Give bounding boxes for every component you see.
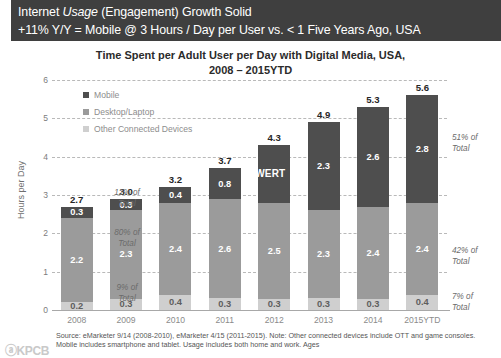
annotation-left-share: 9% ofTotal bbox=[103, 283, 151, 304]
bar-segment-other[interactable]: 0.2 bbox=[61, 302, 93, 310]
legend-swatch-mobile bbox=[83, 92, 89, 98]
chart-legend: Mobile Desktop/Laptop Other Connected De… bbox=[83, 86, 192, 137]
slide-header-band: Internet Usage (Engagement) Growth Solid… bbox=[11, 0, 501, 41]
y-axis-tick: 4 bbox=[30, 152, 48, 162]
chart-title-line-1: Time Spent per Adult User per Day with D… bbox=[0, 48, 501, 63]
bar-segment-mobile[interactable]: 2.8 bbox=[406, 95, 438, 202]
bar-total-label: 5.3 bbox=[351, 94, 395, 105]
bar-segment-mobile[interactable]: 2.3 bbox=[308, 122, 340, 210]
bar-segment-other[interactable]: 0.4 bbox=[159, 295, 191, 310]
bar-segment-desktop[interactable]: 2.4 bbox=[357, 207, 389, 299]
x-axis-tick: 2008 bbox=[51, 315, 103, 325]
legend-item-other[interactable]: Other Connected Devices bbox=[83, 120, 192, 137]
x-axis-tick: 2011 bbox=[199, 315, 251, 325]
header-line-2: +11% Y/Y = Mobile @ 3 Hours / Day per Us… bbox=[18, 21, 501, 39]
axis-baseline bbox=[52, 310, 450, 311]
bar-total-label: 4.9 bbox=[302, 109, 346, 120]
y-axis-tick: 6 bbox=[30, 75, 48, 85]
bar-segment-desktop[interactable]: 2.6 bbox=[209, 199, 241, 299]
header-line1-pre: Internet bbox=[18, 5, 63, 19]
legend-swatch-other bbox=[83, 126, 89, 132]
header-line1-emphasis: Usage bbox=[63, 5, 98, 19]
bar-segment-mobile[interactable]: 0.4 bbox=[159, 187, 191, 202]
bar-segment-desktop[interactable]: 2.5 bbox=[258, 203, 290, 299]
bar-segment-mobile[interactable]: 0.3 bbox=[61, 207, 93, 219]
bar-stack[interactable]: 2.82.40.4 bbox=[406, 95, 438, 310]
bar-segment-mobile[interactable]: 2.6 bbox=[357, 107, 389, 207]
y-axis-tick: 1 bbox=[30, 267, 48, 277]
x-axis-tick: 2010 bbox=[149, 315, 201, 325]
x-axis-tick: 2014 bbox=[347, 315, 399, 325]
annotation-right-share: 7% ofTotal bbox=[452, 292, 501, 313]
bar-segment-desktop[interactable]: 2.4 bbox=[159, 203, 191, 295]
legend-label-mobile: Mobile bbox=[94, 90, 119, 100]
bar-stack[interactable]: 0.42.40.4 bbox=[159, 187, 191, 310]
legend-label-desktop: Desktop/Laptop bbox=[94, 107, 154, 117]
bar-stack[interactable]: 2.62.40.3 bbox=[357, 107, 389, 310]
y-axis-tick: 0 bbox=[30, 305, 48, 315]
bar-segment-other[interactable]: 0.3 bbox=[209, 298, 241, 310]
bar-segment-other[interactable]: 0.3 bbox=[308, 298, 340, 310]
legend-item-desktop[interactable]: Desktop/Laptop bbox=[83, 103, 192, 120]
x-axis-tick: 2013 bbox=[298, 315, 350, 325]
chart-title: Time Spent per Adult User per Day with D… bbox=[0, 48, 501, 77]
bar-segment-other[interactable]: 0.4 bbox=[406, 295, 438, 310]
y-axis-label: Hours per Day bbox=[16, 145, 26, 235]
y-axis-tick: 2 bbox=[30, 228, 48, 238]
bar-total-label: 3.2 bbox=[153, 174, 197, 185]
bar-stack[interactable]: 0.82.60.3 bbox=[209, 168, 241, 310]
chart-title-line-2: 2008 – 2015YTD bbox=[0, 63, 501, 78]
header-line-1: Internet Usage (Engagement) Growth Solid bbox=[18, 3, 501, 21]
x-axis-tick: 2012 bbox=[248, 315, 300, 325]
legend-label-other: Other Connected Devices bbox=[94, 124, 192, 134]
annotation-right-share: 51% ofTotal bbox=[452, 133, 501, 154]
wert-overlay-text: WERT bbox=[255, 168, 285, 179]
bar-segment-desktop[interactable]: 2.2 bbox=[61, 218, 93, 302]
bar-total-label: 3.7 bbox=[203, 155, 247, 166]
y-axis-tick: 5 bbox=[30, 113, 48, 123]
source-note: Source: eMarketer 9/14 (2008-2010), eMar… bbox=[56, 331, 497, 349]
bar-total-label: 2.7 bbox=[55, 194, 99, 205]
bar-segment-other[interactable]: 0.3 bbox=[357, 299, 389, 311]
y-axis-tick: 3 bbox=[30, 190, 48, 200]
legend-swatch-desktop bbox=[83, 109, 89, 115]
x-axis-tick: 2015YTD bbox=[396, 315, 448, 325]
annotation-left-share: 80% ofTotal bbox=[103, 228, 151, 249]
bar-segment-desktop[interactable]: 2.4 bbox=[406, 203, 438, 295]
bar-stack[interactable]: 0.32.20.2 bbox=[61, 207, 93, 311]
annotation-right-share: 42% ofTotal bbox=[452, 246, 501, 267]
x-axis-tick: 2009 bbox=[100, 315, 152, 325]
bar-segment-other[interactable]: 0.3 bbox=[258, 299, 290, 311]
gridline bbox=[52, 80, 447, 81]
legend-item-mobile[interactable]: Mobile bbox=[83, 86, 192, 103]
header-line1-post: (Engagement) Growth Solid bbox=[98, 5, 252, 19]
bar-segment-mobile[interactable]: 0.8 bbox=[209, 168, 241, 199]
bar-segment-desktop[interactable]: 2.3 bbox=[308, 210, 340, 298]
bar-stack[interactable]: 2.32.30.3 bbox=[308, 122, 340, 310]
kpcb-logo: ⓐKPCB bbox=[5, 341, 49, 358]
bar-total-label: 4.3 bbox=[252, 132, 296, 143]
bar-total-label: 5.6 bbox=[400, 82, 444, 93]
annotation-left-share: 12% ofTotal bbox=[103, 188, 151, 209]
